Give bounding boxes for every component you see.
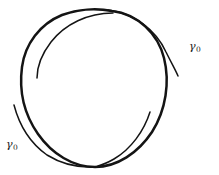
outer-arc-upper-right-path [108,10,178,76]
gamma-symbol-left: γ [6,138,13,151]
gamma-zero-label-left: γ0 [6,139,17,150]
gamma-zero-label-right: γ0 [189,41,200,52]
gamma-subscript-right: 0 [196,45,201,54]
gamma-symbol-right: γ [189,40,196,53]
main-contour-path [21,9,167,167]
figure-canvas: γ0 γ0 [0,0,219,175]
contour-drawing [0,0,219,175]
gamma-subscript-left: 0 [13,143,18,152]
